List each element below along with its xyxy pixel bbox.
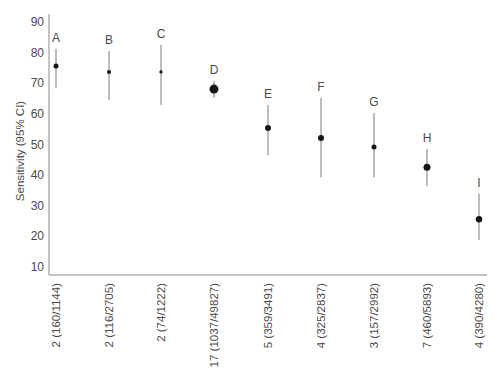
point-letter-label: H <box>423 131 432 145</box>
point-letter-label: C <box>157 27 166 41</box>
y-axis: 102030405060708090 <box>31 14 49 275</box>
point-letter-label: A <box>52 31 60 45</box>
point-estimate-marker <box>265 125 271 131</box>
point-letter-label: F <box>317 80 324 94</box>
x-category-label: 7 (460/5893) <box>421 283 433 348</box>
x-category-label: 2 (160/1144) <box>50 283 62 348</box>
data-point-group: H <box>423 131 432 186</box>
x-category-label: 5 (359/3491) <box>262 283 274 348</box>
point-letter-label: D <box>210 63 219 77</box>
point-letter-label: E <box>264 87 272 101</box>
x-category-label: 2 (116/2705) <box>103 283 115 348</box>
y-axis-title: Sensitivity (95% CI) <box>14 101 26 202</box>
x-category-label: 4 (325/2837) <box>315 283 327 348</box>
data-point-group: I <box>476 176 482 241</box>
x-category-label: 17 (1037/49827) <box>208 283 220 368</box>
point-estimate-marker <box>372 144 377 149</box>
point-estimate-marker <box>54 64 59 69</box>
sensitivity-forest-chart: 102030405060708090 Sensitivity (95% CI) … <box>0 0 502 368</box>
point-letter-label: G <box>369 95 378 109</box>
data-point-group: G <box>369 95 378 177</box>
chart-canvas: 102030405060708090 Sensitivity (95% CI) … <box>0 0 502 368</box>
y-tick-label: 90 <box>31 15 45 29</box>
y-tick-label: 40 <box>31 168 45 182</box>
y-tick-label: 30 <box>31 199 45 213</box>
y-tick-label: 20 <box>31 229 45 243</box>
data-points: ABCDEFGHI <box>52 27 482 240</box>
x-category-labels: 2 (160/1144)2 (116/2705)2 (74/1222)17 (1… <box>50 283 485 368</box>
point-letter-label: I <box>477 176 480 190</box>
y-tick-label: 60 <box>31 107 45 121</box>
x-category-label: 2 (74/1222) <box>155 283 167 342</box>
point-letter-label: B <box>105 33 113 47</box>
data-point-group: A <box>52 31 60 88</box>
point-estimate-marker <box>424 164 431 171</box>
point-estimate-marker <box>476 216 482 222</box>
y-tick-label: 80 <box>31 46 45 60</box>
point-estimate-marker <box>159 70 162 73</box>
point-estimate-marker <box>210 85 219 94</box>
point-estimate-marker <box>107 70 111 74</box>
point-estimate-marker <box>318 135 324 141</box>
x-category-label: 3 (157/2992) <box>368 283 380 348</box>
data-point-group: B <box>105 33 113 100</box>
data-point-group: C <box>157 27 166 105</box>
data-point-group: D <box>210 63 219 98</box>
y-tick-label: 10 <box>31 260 45 274</box>
data-point-group: F <box>317 80 324 177</box>
x-category-label: 4 (390/4280) <box>473 283 485 348</box>
data-point-group: E <box>264 87 272 155</box>
y-tick-label: 50 <box>31 138 45 152</box>
y-tick-label: 70 <box>31 76 45 90</box>
